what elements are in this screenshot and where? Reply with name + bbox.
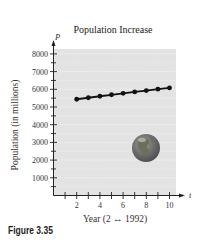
x-axis-label: Year (2 ↔ 1992) bbox=[83, 214, 147, 225]
data-point bbox=[74, 97, 79, 102]
y-tick-label: 3000 bbox=[32, 138, 48, 147]
y-tick-label: 8000 bbox=[32, 50, 48, 59]
y-axis-label: Population (in millions) bbox=[10, 80, 21, 171]
data-point bbox=[109, 92, 114, 97]
earth-globe-icon bbox=[132, 134, 160, 162]
x-axis-var: t bbox=[189, 190, 192, 200]
data-point bbox=[132, 90, 137, 95]
figure-caption: Figure 3.35 bbox=[8, 225, 53, 236]
population-chart: Population Increase P t 1000200030004000… bbox=[0, 0, 197, 252]
plot-background bbox=[54, 49, 176, 195]
x-tick-label: 10 bbox=[166, 201, 174, 210]
data-point bbox=[167, 86, 172, 91]
data-point bbox=[121, 91, 126, 96]
x-tick-label: 4 bbox=[98, 201, 102, 210]
data-point bbox=[144, 88, 149, 93]
x-tick-label: 6 bbox=[121, 201, 125, 210]
x-tick-label: 8 bbox=[144, 201, 148, 210]
y-tick-label: 6000 bbox=[32, 85, 48, 94]
chart-title: Population Increase bbox=[73, 24, 153, 35]
data-point bbox=[86, 95, 91, 100]
y-tick-label: 2000 bbox=[32, 156, 48, 165]
y-tick-label: 7000 bbox=[32, 68, 48, 77]
data-point bbox=[156, 87, 161, 92]
data-point bbox=[98, 94, 103, 99]
y-tick-label: 4000 bbox=[32, 121, 48, 130]
x-axis-arrow-icon bbox=[179, 194, 185, 198]
y-tick-label: 5000 bbox=[32, 103, 48, 112]
y-tick-label: 1000 bbox=[32, 174, 48, 183]
x-tick-label: 2 bbox=[75, 201, 79, 210]
y-axis-var: P bbox=[54, 32, 60, 42]
